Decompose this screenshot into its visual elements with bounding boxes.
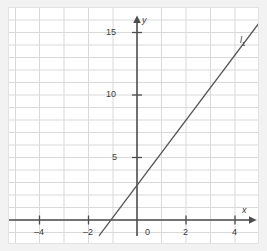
y-tick-label-5: 5: [112, 153, 117, 162]
line-label-l1: l1: [240, 36, 245, 47]
figure-canvas: 15 10 5 –4 –2 0 2 4 y x l1: [0, 0, 267, 251]
y-axis: [133, 16, 141, 237]
x-axis: [9, 216, 257, 224]
x-tick-label-2: 2: [183, 228, 188, 237]
horizontal-gridlines: [9, 20, 258, 233]
x-tick-label-minus4: –4: [34, 228, 44, 237]
line-label-subscript: 1: [242, 41, 245, 47]
coordinate-plane: [9, 8, 258, 243]
y-tick-label-10: 10: [106, 90, 116, 99]
y-axis-label: y: [142, 16, 147, 25]
x-tick-label-4: 4: [232, 228, 237, 237]
x-tick-label-minus2: –2: [83, 228, 93, 237]
x-tick-label-0: 0: [145, 228, 150, 237]
x-axis-label: x: [242, 206, 247, 215]
plot-frame: 15 10 5 –4 –2 0 2 4 y x l1: [8, 7, 259, 244]
y-tick-label-15: 15: [106, 28, 116, 37]
series-line-l1: [99, 23, 258, 236]
